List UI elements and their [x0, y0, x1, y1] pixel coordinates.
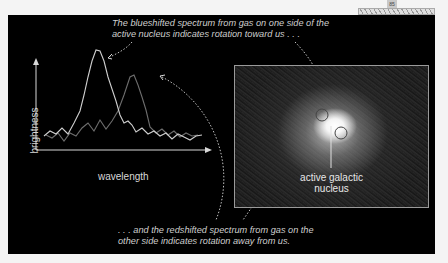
x-axis-label: wavelength — [98, 171, 149, 182]
y-axis-arrow-icon — [33, 58, 39, 65]
blueshift-spectrum-line — [44, 50, 202, 140]
toolbar-tab[interactable]: 85 — [387, 0, 397, 8]
caption-line: . . . and the redshifted spectrum from g… — [118, 225, 314, 236]
galaxy-image: active galactic nucleus — [234, 65, 429, 208]
nucleus-label-line: nucleus — [235, 183, 428, 194]
y-axis-label: brightness — [29, 101, 40, 161]
nucleus-label-line: active galactic — [235, 172, 428, 183]
redshift-spectrum-line — [46, 75, 198, 141]
arrowhead-icon — [108, 54, 112, 59]
redshift-region-circle — [335, 127, 347, 139]
leader-line-redshift — [162, 77, 224, 220]
caption-line: other side indicates rotation away from … — [118, 236, 314, 247]
diagram-panel: The blueshifted spectrum from gas on one… — [8, 15, 435, 254]
caption-redshift: . . . and the redshifted spectrum from g… — [118, 225, 314, 247]
leader-line-blueshift — [110, 42, 132, 57]
nucleus-label: active galactic nucleus — [235, 172, 428, 194]
blueshift-region-circle — [316, 109, 328, 121]
toolbar-strip[interactable] — [358, 8, 435, 15]
x-axis-arrow-icon — [205, 147, 212, 153]
